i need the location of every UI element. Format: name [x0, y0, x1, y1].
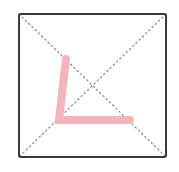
background — [0, 0, 179, 172]
diagram-canvas — [0, 0, 179, 172]
